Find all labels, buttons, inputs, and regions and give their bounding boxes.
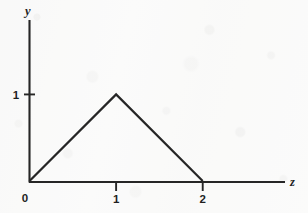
x-axis-label: z: [289, 175, 295, 189]
figure-container: y z 0 1 1 2: [0, 0, 308, 213]
plot-canvas: y z 0 1 1 2: [0, 0, 308, 213]
origin-tick-label: 0: [22, 192, 28, 204]
x-tick-label-2: 2: [200, 193, 206, 205]
x-tick-label-1: 1: [113, 193, 120, 205]
y-axis-label: y: [23, 4, 31, 18]
triangular-pulse-curve: [30, 94, 203, 181]
y-tick-label-1: 1: [13, 89, 20, 101]
